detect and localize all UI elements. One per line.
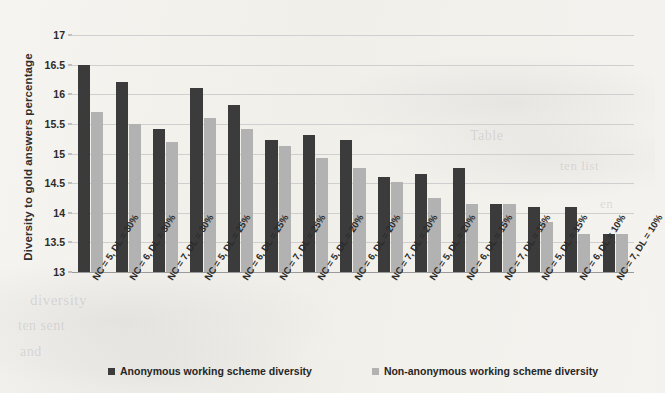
bar-non-anonymous	[241, 129, 253, 272]
y-axis-title: Diversity to gold answers percentage	[22, 32, 44, 282]
bar-anonymous	[78, 65, 90, 272]
legend-item-non-anonymous: Non-anonymous working scheme diversity	[372, 365, 598, 377]
y-tick-label: 15.5	[45, 118, 65, 130]
y-tick-label: 16.5	[45, 59, 65, 71]
y-tick-label: 16	[53, 88, 65, 100]
bar-non-anonymous	[91, 112, 103, 272]
bar-non-anonymous	[129, 124, 141, 272]
bar-non-anonymous	[166, 142, 178, 272]
chart-legend: Anonymous working scheme diversity Non-a…	[72, 361, 634, 381]
y-tick-label: 13	[53, 266, 65, 278]
y-tick-label: 14	[53, 207, 65, 219]
y-tick-label: 17	[53, 29, 65, 41]
y-tick-label: 15	[53, 148, 65, 160]
y-tick-label: 13.5	[45, 236, 65, 248]
y-tick-label: 14.5	[45, 177, 65, 189]
bar-non-anonymous	[204, 118, 216, 272]
legend-item-anonymous: Anonymous working scheme diversity	[108, 365, 312, 377]
light-square-icon	[372, 368, 379, 375]
x-axis-labels: NC = 5, DL = 30%NC = 6, DL = 30%NC = 7, …	[72, 272, 634, 362]
bar-non-anonymous	[279, 146, 291, 272]
legend-label-anonymous: Anonymous working scheme diversity	[120, 365, 312, 377]
legend-label-non-anonymous: Non-anonymous working scheme diversity	[384, 365, 598, 377]
dark-square-icon	[108, 368, 115, 375]
bar-group	[78, 35, 103, 272]
